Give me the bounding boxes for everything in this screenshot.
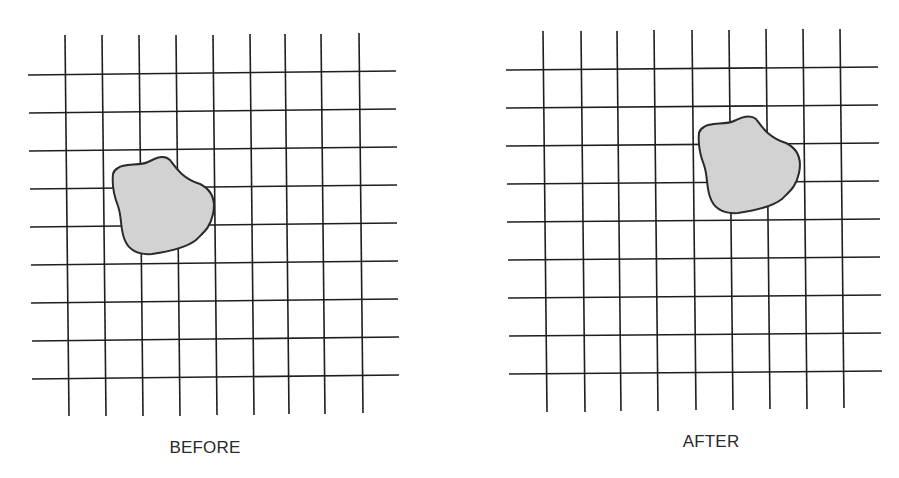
- after-grid-vertical-line-7: [766, 29, 770, 409]
- after-panel: [506, 29, 882, 412]
- before-grid-vertical-line-1: [65, 35, 69, 416]
- before-grid-horizontal-line-1: [28, 71, 396, 75]
- before-grid-horizontal-line-5: [30, 223, 397, 227]
- after-blob-shape: [699, 116, 800, 213]
- before-grid-horizontal-line-7: [31, 299, 398, 303]
- diagram-canvas: [0, 0, 899, 478]
- before-grid-horizontal-line-6: [31, 261, 398, 265]
- before-grid-horizontal-line-3: [29, 147, 397, 151]
- before-grid: [28, 33, 399, 416]
- before-grid-horizontal-line-2: [29, 109, 396, 113]
- before-grid-horizontal-line-9: [32, 375, 399, 379]
- before-panel: [28, 33, 399, 416]
- after-label: AFTER: [683, 432, 740, 452]
- before-label: BEFORE: [169, 438, 240, 458]
- before-grid-horizontal-line-4: [30, 185, 397, 189]
- before-blob-shape: [113, 157, 214, 254]
- after-grid: [506, 29, 882, 412]
